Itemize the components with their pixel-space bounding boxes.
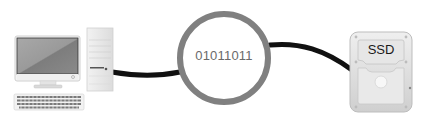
cable-right xyxy=(270,44,352,70)
tower-icon xyxy=(87,28,113,91)
diagram-canvas: 01011011 SSD xyxy=(0,0,426,124)
computer-icon xyxy=(14,28,113,110)
monitor-icon xyxy=(15,36,80,88)
keyboard-icon xyxy=(14,94,84,110)
ssd-label: SSD xyxy=(358,42,404,57)
cable-left xyxy=(112,72,180,75)
binary-data-label: 01011011 xyxy=(177,48,271,63)
